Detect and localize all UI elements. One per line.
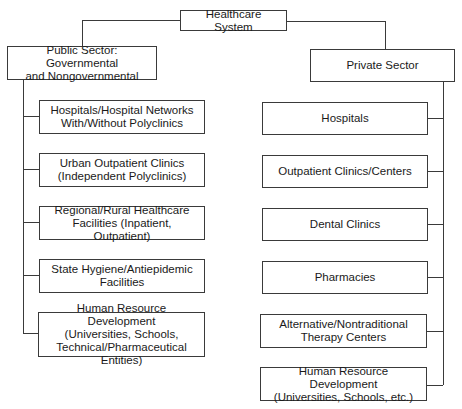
connector-private-child-2 — [427, 171, 443, 172]
private-child-alternative-therapy: Alternative/Nontraditional Therapy Cente… — [260, 314, 427, 348]
connector-root-to-private-h — [287, 21, 385, 22]
connector-private-child-4 — [427, 277, 443, 278]
public-child-regional-rural: Regional/Rural Healthcare Facilities (In… — [39, 206, 205, 240]
connector-public-child-1 — [23, 116, 39, 117]
node-label: Private Sector — [346, 59, 418, 72]
public-sector-trunk — [23, 79, 24, 333]
node-label: Public Sector: Governmental and Nongover… — [12, 44, 152, 83]
connector-root-to-public-v — [82, 20, 83, 46]
private-sector-trunk — [443, 81, 444, 385]
private-child-dental-clinics: Dental Clinics — [262, 208, 428, 241]
node-label: Dental Clinics — [310, 218, 380, 231]
node-label: State Hygiene/Antiepidemic Facilities — [51, 263, 192, 289]
connector-root-to-private-v — [385, 21, 386, 49]
root-node-healthcare-system: Healthcare System — [180, 10, 287, 31]
node-label: Healthcare System — [185, 8, 282, 34]
private-child-outpatient-clinics: Outpatient Clinics/Centers — [262, 155, 428, 188]
branch-node-public-sector: Public Sector: Governmental and Nongover… — [7, 46, 157, 80]
branch-node-private-sector: Private Sector — [310, 49, 455, 82]
connector-private-child-5 — [427, 331, 443, 332]
node-label: Human Resource Development (Universities… — [265, 365, 422, 404]
connector-public-child-4 — [23, 275, 39, 276]
private-child-hospitals: Hospitals — [262, 102, 428, 135]
private-child-pharmacies: Pharmacies — [262, 261, 428, 294]
node-label: Regional/Rural Healthcare Facilities (In… — [44, 204, 200, 243]
node-label: Human Resource Development (Universities… — [43, 302, 200, 367]
node-label: Hospitals — [321, 112, 368, 125]
connector-public-child-5 — [23, 333, 39, 334]
private-child-human-resource: Human Resource Development (Universities… — [260, 367, 427, 401]
node-label: Outpatient Clinics/Centers — [278, 165, 412, 178]
connector-private-child-1 — [427, 118, 443, 119]
public-child-urban-outpatient: Urban Outpatient Clinics (Independent Po… — [39, 153, 205, 187]
node-label: Hospitals/Hospital Networks With/Without… — [50, 104, 193, 130]
node-label: Urban Outpatient Clinics (Independent Po… — [58, 157, 187, 183]
connector-private-child-3 — [427, 224, 443, 225]
public-child-hospitals-networks: Hospitals/Hospital Networks With/Without… — [39, 100, 205, 134]
public-child-state-hygiene: State Hygiene/Antiepidemic Facilities — [39, 259, 205, 293]
connector-root-to-public-h — [82, 20, 180, 21]
public-child-human-resource: Human Resource Development (Universities… — [38, 312, 205, 357]
connector-public-child-2 — [23, 169, 39, 170]
node-label: Alternative/Nontraditional Therapy Cente… — [279, 318, 408, 344]
connector-private-child-6 — [427, 385, 443, 386]
node-label: Pharmacies — [315, 271, 376, 284]
connector-public-child-3 — [23, 222, 39, 223]
